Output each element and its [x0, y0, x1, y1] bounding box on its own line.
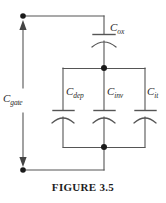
figure-caption: FIGURE 3.5 — [0, 181, 166, 193]
cgate-arrowhead-up — [19, 20, 26, 30]
terminal-node-top-left — [20, 13, 26, 19]
label-c-ox: Cox — [110, 22, 124, 33]
label-c-gate-subscript: gate — [10, 98, 22, 107]
label-c-it-subscript: it — [154, 91, 158, 100]
label-c-dep: Cdep — [66, 86, 84, 97]
circuit-schematic — [0, 0, 166, 203]
label-c-inv-subscript: inv — [114, 91, 123, 100]
label-c-inv: Cinv — [107, 86, 123, 97]
junction-node-upper — [101, 65, 107, 71]
label-c-it: Cit — [147, 86, 158, 97]
terminal-node-bottom-left — [20, 167, 26, 173]
figure-container: Cgate Cox Cdep Cinv Cit FIGURE 3.5 — [0, 0, 166, 203]
label-c-gate: Cgate — [3, 93, 22, 104]
cgate-arrowhead-down — [19, 157, 26, 167]
label-c-ox-subscript: ox — [117, 27, 124, 36]
junction-node-lower — [101, 144, 107, 150]
label-c-dep-subscript: dep — [73, 91, 83, 100]
